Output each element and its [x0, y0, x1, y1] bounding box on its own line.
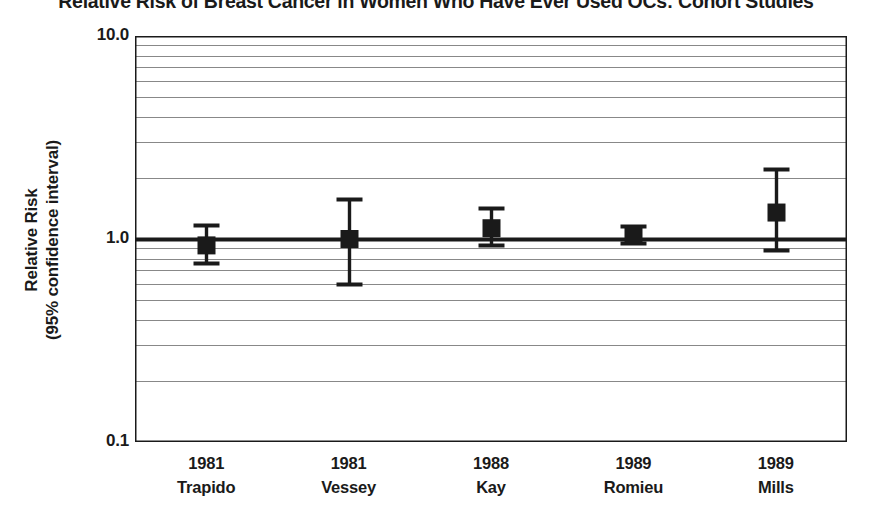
y-tick-label-1: 1.0	[65, 228, 129, 248]
plot-svg	[135, 36, 847, 442]
x-tick-year-1: 1981	[274, 452, 424, 476]
x-tick-year-4: 1989	[701, 452, 851, 476]
x-tick-author-0: Trapido	[131, 476, 281, 500]
point-marker	[483, 219, 501, 237]
forest-plot-figure: Relative Risk of Breast Cancer in Women …	[0, 0, 872, 530]
x-tick-author-2: Kay	[416, 476, 566, 500]
x-tick-author-1: Vessey	[274, 476, 424, 500]
x-tick-label-kay: 1988 Kay	[416, 452, 566, 500]
x-tick-label-trapido: 1981 Trapido	[131, 452, 281, 500]
x-tick-label-mills: 1989 Mills	[701, 452, 851, 500]
x-tick-year-2: 1988	[416, 452, 566, 476]
x-tick-label-vessey: 1981 Vessey	[274, 452, 424, 500]
x-tick-year-3: 1989	[558, 452, 708, 476]
data-points	[194, 169, 790, 284]
y-axis-tick-labels: 10.0 1.0 0.1	[55, 0, 129, 530]
x-tick-label-romieu: 1989 Romieu	[558, 452, 708, 500]
x-tick-author-4: Mills	[701, 476, 851, 500]
x-axis-tick-labels: 1981 Trapido 1981 Vessey 1988 Kay 1989 R…	[135, 452, 847, 514]
x-tick-year-0: 1981	[131, 452, 281, 476]
y-tick-label-0.1: 0.1	[65, 431, 129, 451]
chart-title: Relative Risk of Breast Cancer in Women …	[0, 0, 872, 14]
data-point	[194, 225, 220, 263]
y-axis-title-line1: Relative Risk	[22, 140, 43, 340]
plot-area	[135, 36, 847, 442]
data-point	[337, 199, 363, 285]
y-tick-label-10: 10.0	[65, 25, 129, 45]
x-tick-author-3: Romieu	[558, 476, 708, 500]
point-marker	[768, 204, 786, 222]
